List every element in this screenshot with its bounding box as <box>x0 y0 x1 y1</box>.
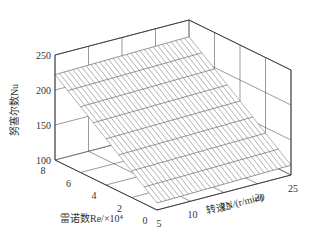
svg-text:4: 4 <box>92 190 97 201</box>
svg-text:10: 10 <box>188 209 198 220</box>
x-axis-label: 转速N/(r/min) <box>205 190 265 217</box>
svg-text:250: 250 <box>36 50 51 61</box>
z-axis-label: 努塞尔数Nu <box>8 84 20 136</box>
surface-chart: 10015020025002468510152025 努塞尔数Nu 雷诺数Re/… <box>0 0 319 242</box>
svg-text:6: 6 <box>66 178 71 189</box>
svg-text:8: 8 <box>41 165 46 176</box>
y-axis-label: 雷诺数Re/×10⁴ <box>60 212 124 224</box>
svg-text:2: 2 <box>117 203 122 214</box>
svg-text:25: 25 <box>288 183 298 194</box>
svg-text:200: 200 <box>36 85 51 96</box>
svg-text:5: 5 <box>157 218 162 229</box>
svg-text:0: 0 <box>143 215 148 226</box>
surface-mesh <box>55 37 291 203</box>
svg-text:150: 150 <box>36 120 51 131</box>
